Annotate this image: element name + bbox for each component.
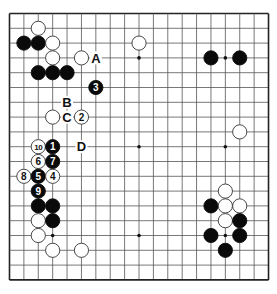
black-stone — [233, 228, 247, 242]
white-stone-4: 4 — [46, 169, 60, 183]
white-stone — [233, 125, 247, 139]
black-stone — [46, 214, 60, 228]
stone-circle — [31, 36, 45, 50]
black-stone — [17, 36, 31, 50]
stone-circle — [46, 243, 60, 257]
black-stone — [46, 199, 60, 213]
black-stone — [233, 214, 247, 228]
move-number: 9 — [35, 186, 41, 197]
stone-circle — [218, 199, 232, 213]
star-point — [224, 56, 228, 60]
marker-label: A — [91, 51, 101, 66]
white-stone-8: 8 — [17, 169, 31, 183]
white-stone — [218, 214, 232, 228]
black-stone — [46, 66, 60, 80]
black-stone — [31, 36, 45, 50]
black-stone — [204, 199, 218, 213]
stone-circle — [46, 36, 60, 50]
move-number: 1 — [50, 141, 56, 152]
white-stone — [31, 214, 45, 228]
stone-circle — [233, 228, 247, 242]
stone-circle — [204, 199, 218, 213]
white-stone — [218, 184, 232, 198]
stone-circle — [74, 243, 88, 257]
stone-circle — [31, 228, 45, 242]
white-stone — [46, 243, 60, 257]
marker-d: D — [75, 139, 87, 154]
star-point — [51, 234, 55, 238]
stone-circle — [74, 51, 88, 65]
white-stone — [31, 21, 45, 35]
stone-circle — [218, 214, 232, 228]
black-stone-5: 5 — [31, 169, 45, 183]
stone-circle — [204, 51, 218, 65]
stone-circle — [233, 125, 247, 139]
stone-circle — [31, 21, 45, 35]
black-stone — [204, 51, 218, 65]
stone-circle — [132, 36, 146, 50]
move-number: 7 — [50, 156, 56, 167]
star-point — [137, 145, 141, 149]
go-board-diagram: ABCD 32101678549 — [0, 0, 277, 294]
marker-a: A — [90, 51, 102, 66]
star-point — [137, 234, 141, 238]
stone-circle — [46, 110, 60, 124]
move-number: 6 — [35, 156, 41, 167]
white-stone — [46, 110, 60, 124]
move-number: 3 — [93, 82, 99, 93]
black-stone-1: 1 — [46, 140, 60, 154]
stone-circle — [218, 184, 232, 198]
white-stone-2: 2 — [74, 110, 88, 124]
white-stone — [218, 199, 232, 213]
move-number: 8 — [21, 171, 27, 182]
stone-circle — [46, 66, 60, 80]
move-number: 5 — [35, 171, 41, 182]
white-stone — [74, 243, 88, 257]
star-point — [224, 234, 228, 238]
stone-circle — [60, 66, 74, 80]
stone-circle — [204, 228, 218, 242]
white-stone — [74, 51, 88, 65]
marker-c: C — [61, 110, 73, 125]
white-stone — [132, 36, 146, 50]
move-number: 2 — [79, 112, 85, 123]
black-stone — [233, 51, 247, 65]
stone-circle — [46, 214, 60, 228]
white-stone — [46, 51, 60, 65]
white-stone-10: 10 — [31, 140, 45, 154]
star-point — [137, 56, 141, 60]
marker-label: B — [62, 95, 71, 110]
black-stone — [218, 243, 232, 257]
white-stone — [46, 36, 60, 50]
move-number: 4 — [50, 171, 56, 182]
black-stone — [31, 199, 45, 213]
stone-circle — [233, 51, 247, 65]
marker-label: D — [77, 139, 86, 154]
stone-circle — [46, 199, 60, 213]
marker-label: C — [62, 110, 72, 125]
black-stone-3: 3 — [89, 80, 103, 94]
black-stone — [204, 228, 218, 242]
stone-circle — [46, 51, 60, 65]
stone-circle — [17, 36, 31, 50]
star-point — [224, 145, 228, 149]
black-stone — [31, 66, 45, 80]
stone-circle — [31, 214, 45, 228]
move-number: 10 — [34, 143, 43, 152]
marker-b: B — [61, 95, 73, 110]
stone-circle — [218, 243, 232, 257]
white-stone-6: 6 — [31, 154, 45, 168]
white-stone — [233, 199, 247, 213]
black-stone-9: 9 — [31, 184, 45, 198]
stone-circle — [31, 66, 45, 80]
stone-circle — [233, 214, 247, 228]
white-stone — [31, 228, 45, 242]
black-stone-7: 7 — [46, 154, 60, 168]
stone-circle — [233, 199, 247, 213]
black-stone — [60, 66, 74, 80]
stone-circle — [31, 199, 45, 213]
